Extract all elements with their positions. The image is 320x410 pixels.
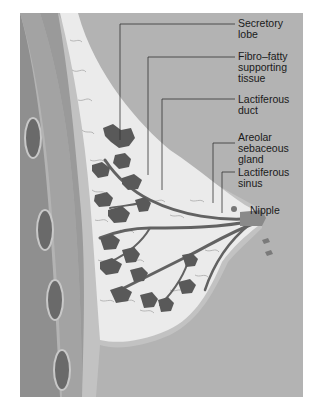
label-lactiferous-sinus: Lactiferous sinus [238,167,289,189]
rib-cross-section [37,210,53,250]
areola-detail [262,238,273,256]
areolar-gland [231,206,237,212]
label-lactiferous-duct: Lactiferous duct [238,94,289,116]
rib-cross-section [54,350,70,390]
label-nipple: Nipple [250,205,280,216]
rib-cross-section [25,118,41,158]
label-secretory-lobe: Secretory lobe [238,18,283,40]
rib-cross-section [47,280,63,320]
label-fibro-fatty-tissue: Fibro–fatty supporting tissue [238,51,288,84]
label-areolar-sebaceous-gland: Areolar sebaceous gland [238,132,289,165]
